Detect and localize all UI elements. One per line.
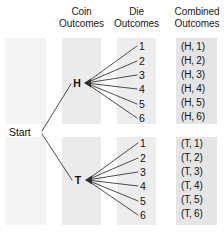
combined-outcome-h-3: (H, 3): [181, 69, 205, 80]
arrowhead-into-t: [85, 176, 92, 185]
node-t: T: [72, 174, 84, 186]
header-coin-line1: Coin: [71, 6, 91, 17]
die-outcome-t-2: 2: [140, 152, 146, 164]
die-outcome-t-5: 5: [140, 195, 146, 207]
combined-outcome-t-5: (T, 5): [181, 194, 203, 205]
edge-h-to-3: [86, 75, 137, 83]
header-coin: Coin Outcomes: [57, 6, 106, 29]
edge-t-to-3: [87, 172, 138, 180]
header-combined: Combined Outcomes: [170, 6, 224, 29]
combined-outcome-h-2: (H, 2): [181, 55, 205, 66]
die-outcome-h-5: 5: [139, 98, 145, 110]
combined-outcome-h-5: (H, 5): [181, 97, 205, 108]
arrowhead-into-h: [84, 79, 91, 88]
header-die-line1: Die: [129, 6, 144, 17]
node-h: H: [71, 77, 83, 89]
header-die-line2: Outcomes: [112, 18, 161, 30]
die-outcome-t-1: 1: [140, 137, 146, 149]
combined-outcome-h-1: (H, 1): [181, 41, 205, 52]
edge-start-to-h: [42, 84, 71, 131]
combined-outcome-h-4: (H, 4): [181, 83, 205, 94]
combined-outcome-t-3: (T, 3): [181, 166, 203, 177]
die-outcome-h-3: 3: [139, 69, 145, 81]
edge-start-to-t: [42, 134, 72, 180]
combined-outcome-t-6: (T, 6): [181, 208, 203, 219]
combined-outcome-t-4: (T, 4): [181, 180, 203, 191]
header-coin-line2: Outcomes: [57, 18, 106, 30]
combined-outcome-t-2: (T, 2): [181, 152, 203, 163]
tree-diagram: Coin Outcomes Die Outcomes Combined Outc…: [0, 0, 224, 234]
die-outcome-h-4: 4: [139, 83, 145, 95]
header-combined-line2: Outcomes: [170, 18, 224, 30]
die-outcome-h-2: 2: [139, 55, 145, 67]
die-outcome-h-1: 1: [139, 40, 145, 52]
combined-outcome-t-1: (T, 1): [181, 138, 203, 149]
header-die: Die Outcomes: [112, 6, 161, 29]
start-node-label: Start: [9, 126, 31, 138]
header-combined-line1: Combined: [175, 6, 220, 17]
die-outcome-t-4: 4: [140, 180, 146, 192]
combined-outcome-h-6: (H, 6): [181, 111, 205, 122]
die-outcome-t-6: 6: [140, 209, 146, 221]
die-outcome-t-3: 3: [140, 166, 146, 178]
die-outcome-h-6: 6: [139, 112, 145, 124]
